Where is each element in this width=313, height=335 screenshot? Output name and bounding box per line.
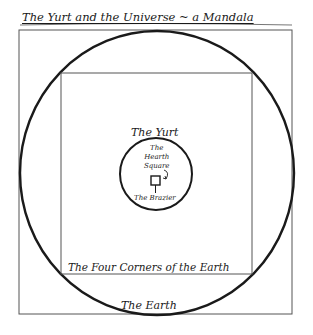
label-brazier: The Brazier xyxy=(134,195,176,202)
label-yurt: The Yurt xyxy=(131,127,179,138)
hearth-line-1: The xyxy=(144,144,169,153)
hearth-arrow-icon xyxy=(163,170,168,179)
label-four-corners: The Four Corners of the Earth xyxy=(68,262,230,273)
diagram-title: The Yurt and the Universe ~ a Mandala xyxy=(22,12,254,24)
hearth-line-2: Hearth xyxy=(144,153,169,162)
hearth-line-3: Square xyxy=(144,162,169,171)
hearth-square xyxy=(151,176,160,185)
label-earth: The Earth xyxy=(121,300,177,311)
four-corners-square xyxy=(61,73,252,274)
label-hearth-square: The Hearth Square xyxy=(144,144,169,171)
